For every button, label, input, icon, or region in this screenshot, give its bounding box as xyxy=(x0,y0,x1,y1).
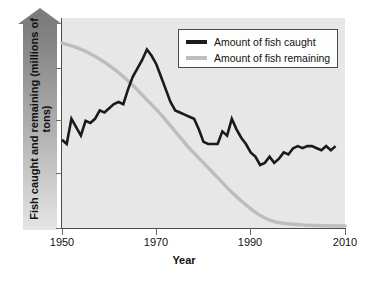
x-axis-tick xyxy=(156,229,157,235)
fish-stocks-line-chart: Fish caught and remaining (millions of t… xyxy=(0,0,368,282)
x-axis-tick-label: 1990 xyxy=(238,236,262,248)
x-axis-line xyxy=(61,228,346,229)
chart-legend: Amount of fish caught Amount of fish rem… xyxy=(178,29,338,68)
line-swatch-black-icon xyxy=(186,40,207,43)
series-line-fish-remaining xyxy=(62,43,345,226)
legend-item-fish-caught: Amount of fish caught xyxy=(186,34,331,50)
legend-label: Amount of fish caught xyxy=(214,36,316,48)
legend-label: Amount of fish remaining xyxy=(214,52,330,64)
x-axis-tick xyxy=(345,229,346,235)
x-axis-tick-label: 1950 xyxy=(50,236,74,248)
y-axis-title: Fish caught and remaining (millions of t… xyxy=(18,8,62,230)
x-axis-tick xyxy=(62,229,63,235)
x-axis-tick xyxy=(250,229,251,235)
x-axis-tick-label: 1970 xyxy=(144,236,168,248)
line-swatch-gray-icon xyxy=(186,56,207,59)
legend-item-fish-remaining: Amount of fish remaining xyxy=(186,50,331,66)
x-axis-tick-label: 2010 xyxy=(333,236,357,248)
x-axis-title: Year xyxy=(0,254,368,266)
